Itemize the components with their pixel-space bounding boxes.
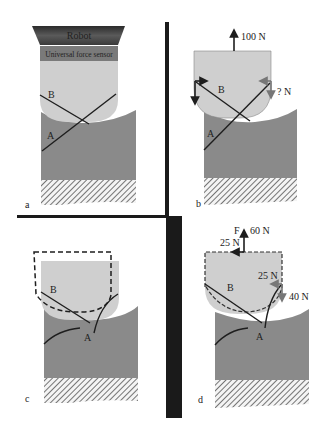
label-a: A: [207, 128, 215, 139]
panel-b: 100 N ? N B A b: [194, 31, 297, 209]
label-b: B: [48, 89, 55, 100]
force-label-top: 100 N: [241, 31, 266, 42]
label-b: B: [218, 84, 225, 95]
panel-label-b: b: [196, 198, 201, 209]
label-a: A: [84, 332, 92, 343]
label-a: A: [256, 331, 264, 342]
fixture-hatched: [204, 178, 297, 205]
force-label-right: ? N: [277, 86, 291, 97]
horizontal-divider: [17, 215, 167, 218]
panel-a: Robot Universal force sensor B A a: [25, 26, 136, 210]
label-b: B: [50, 284, 57, 295]
figure-canvas: Robot Universal force sensor B A a 100 N…: [0, 0, 324, 434]
force-symbol-f: F: [234, 225, 240, 236]
panel-c: B A c: [25, 252, 138, 404]
panel-label-c: c: [25, 393, 30, 404]
force-label-right-horizontal: 25 N: [258, 270, 278, 281]
panel-label-a: a: [25, 199, 30, 210]
fixture-hatched: [41, 180, 136, 205]
fixture-hatched: [44, 378, 138, 403]
fixture-hatched: [215, 380, 309, 408]
label-b: B: [227, 282, 234, 293]
panel-d: F 60 N 25 N 25 N 40 N B A d: [198, 225, 309, 408]
force-label-top-vertical: 60 N: [250, 225, 270, 236]
workpiece: [204, 109, 297, 178]
force-label-right-vertical: 40 N: [289, 291, 309, 302]
robot-label: Robot: [67, 30, 92, 41]
label-a: A: [47, 130, 55, 141]
vertical-divider-top: [165, 22, 169, 218]
force-label-top-horizontal: 25 N: [220, 237, 240, 248]
panel-label-d: d: [198, 394, 203, 405]
sensor-label: Universal force sensor: [45, 50, 113, 59]
workpiece: [215, 309, 309, 380]
vertical-divider-bottom: [166, 216, 182, 418]
